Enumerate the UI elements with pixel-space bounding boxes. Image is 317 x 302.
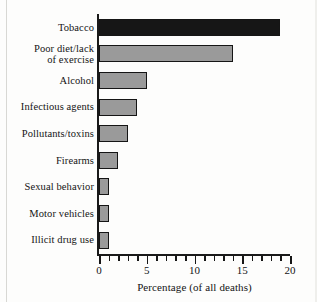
bar-illicit-drug-use — [99, 232, 109, 249]
x-tick-7 — [166, 256, 168, 261]
bar-row-sexual-behavior: Sexual behavior — [0, 174, 317, 201]
x-tick-16 — [252, 256, 254, 261]
bar-poor-diet — [99, 45, 233, 62]
x-tick-3 — [128, 256, 130, 261]
plot-area: Tobacco Poor diet/lack of exercise Alcoh… — [0, 0, 317, 302]
x-tick-11 — [204, 256, 206, 261]
bar-tobacco — [99, 19, 280, 36]
x-axis-title: Percentage (of all deaths) — [99, 281, 290, 293]
x-tick-1 — [109, 256, 111, 261]
bar-row-firearms: Firearms — [0, 147, 317, 174]
bar-row-tobacco: Tobacco — [0, 14, 317, 41]
category-label-pollutants-toxins: Pollutants/toxins — [0, 128, 94, 140]
category-label-motor-vehicles: Motor vehicles — [0, 208, 94, 220]
x-tick-0 — [99, 256, 101, 264]
x-tick-12 — [214, 256, 216, 261]
category-label-tobacco: Tobacco — [0, 22, 94, 34]
category-label-sexual-behavior: Sexual behavior — [0, 181, 94, 193]
bar-firearms — [99, 152, 118, 169]
x-tick-4 — [137, 256, 139, 261]
category-label-alcohol: Alcohol — [0, 75, 94, 87]
x-tick-6 — [156, 256, 158, 261]
bar-row-poor-diet: Poor diet/lack of exercise — [0, 41, 317, 68]
x-tick-label-0: 0 — [96, 264, 102, 276]
category-label-poor-diet-line2: of exercise — [0, 54, 94, 65]
bar-chart: Tobacco Poor diet/lack of exercise Alcoh… — [0, 0, 317, 302]
x-tick-13 — [223, 256, 225, 261]
bar-alcohol — [99, 72, 147, 89]
category-label-infectious-agents: Infectious agents — [0, 101, 94, 113]
x-tick-label-10: 10 — [189, 264, 200, 276]
bar-infectious-agents — [99, 99, 137, 116]
bar-row-infectious-agents: Infectious agents — [0, 94, 317, 121]
x-tick-label-15: 15 — [237, 264, 248, 276]
x-tick-8 — [175, 256, 177, 261]
x-tick-14 — [233, 256, 235, 261]
x-tick-20 — [290, 256, 292, 264]
bar-row-alcohol: Alcohol — [0, 67, 317, 94]
x-tick-15 — [242, 256, 244, 264]
x-tick-18 — [271, 256, 273, 261]
bar-motor-vehicles — [99, 205, 109, 222]
x-tick-10 — [195, 256, 197, 264]
bar-row-pollutants-toxins: Pollutants/toxins — [0, 120, 317, 147]
category-label-poor-diet-line1: Poor diet/lack — [0, 43, 94, 54]
bar-rows: Tobacco Poor diet/lack of exercise Alcoh… — [0, 14, 317, 254]
category-label-illicit-drug-use: Illicit drug use — [0, 234, 94, 246]
x-tick-17 — [261, 256, 263, 261]
x-tick-2 — [118, 256, 120, 261]
x-tick-9 — [185, 256, 187, 261]
bar-row-illicit-drug-use: Illicit drug use — [0, 227, 317, 254]
x-axis-tick-labels: 05101520 — [0, 264, 317, 280]
x-tick-label-20: 20 — [285, 264, 296, 276]
bar-row-motor-vehicles: Motor vehicles — [0, 200, 317, 227]
bar-pollutants-toxins — [99, 125, 128, 142]
category-label-firearms: Firearms — [0, 155, 94, 167]
x-tick-5 — [147, 256, 149, 264]
x-tick-19 — [280, 256, 282, 261]
category-label-poor-diet: Poor diet/lack of exercise — [0, 43, 94, 65]
bar-sexual-behavior — [99, 178, 109, 195]
x-tick-label-5: 5 — [144, 264, 150, 276]
